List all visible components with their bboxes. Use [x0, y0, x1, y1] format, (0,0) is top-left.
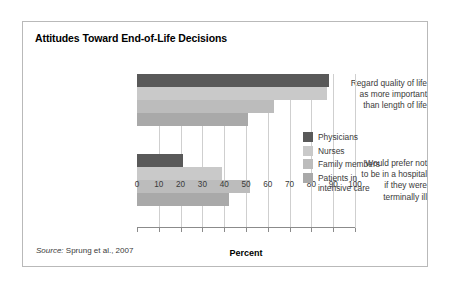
tick-mark [311, 228, 312, 232]
x-tick-label: 0 [125, 180, 149, 189]
legend-item: Nurses [303, 146, 423, 156]
bar [137, 167, 222, 180]
tick-mark [268, 228, 269, 232]
legend-label: Patients in intensive care [318, 173, 370, 193]
legend-swatch [303, 146, 313, 156]
source-note: Source: Sprung et al., 2007 [36, 246, 133, 255]
chart-title: Attitudes Toward End-of-Life Decisions [35, 32, 227, 44]
bar [137, 87, 327, 100]
x-tick-label: 70 [278, 180, 302, 189]
x-tick-label: 20 [169, 180, 193, 189]
x-tick-label: 10 [147, 180, 171, 189]
x-tick-label: 30 [190, 180, 214, 189]
tick-mark [224, 228, 225, 232]
figure-frame: Attitudes Toward End-of-Life Decisions R… [22, 21, 428, 267]
tick-mark [159, 228, 160, 232]
legend-item: Family members [303, 159, 423, 169]
bar [137, 100, 274, 113]
x-tick-label: 40 [212, 180, 236, 189]
legend-label: Nurses [318, 146, 345, 156]
x-tick-label: 60 [256, 180, 280, 189]
bar [137, 113, 248, 126]
legend-swatch [303, 132, 313, 142]
tick-mark [137, 228, 138, 232]
tick-mark [181, 228, 182, 232]
legend-swatch [303, 173, 313, 183]
x-axis-title: Percent [137, 248, 355, 258]
legend-swatch [303, 159, 313, 169]
chart-legend: PhysiciansNursesFamily membersPatients i… [303, 132, 423, 196]
bar [137, 193, 229, 206]
tick-mark [290, 228, 291, 232]
legend-item: Patients in intensive care [303, 173, 423, 193]
legend-label: Family members [318, 159, 380, 169]
legend-item: Physicians [303, 132, 423, 142]
tick-mark [246, 228, 247, 232]
x-tick-label: 50 [234, 180, 258, 189]
tick-mark [333, 228, 334, 232]
tick-mark [355, 228, 356, 232]
bar [137, 154, 183, 167]
source-value: Sprung et al., 2007 [64, 246, 134, 255]
bar [137, 74, 329, 87]
tick-mark [202, 228, 203, 232]
source-label: Source: [36, 246, 64, 255]
legend-label: Physicians [318, 132, 358, 142]
